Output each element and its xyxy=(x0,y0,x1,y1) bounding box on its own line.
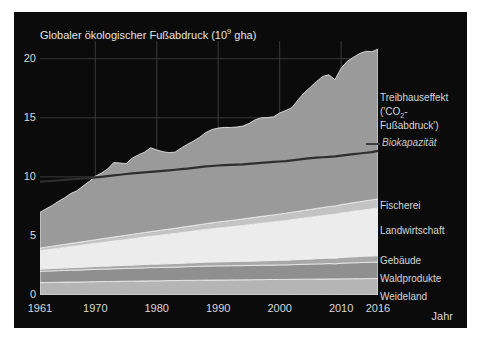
area-series-group xyxy=(40,49,378,295)
x-axis-tick-1961: 1961 xyxy=(17,303,63,314)
x-axis-tick-1990: 1990 xyxy=(195,303,241,314)
x-axis-tick-1970: 1970 xyxy=(72,303,118,314)
chart-figure: Globaler ökologischer Fußabdruck (109 gh… xyxy=(0,0,481,340)
x-axis-tick-2000: 2000 xyxy=(257,303,303,314)
x-axis-tick-1980: 1980 xyxy=(134,303,180,314)
legend-co2-post: - xyxy=(404,106,407,117)
chart-title: Globaler ökologischer Fußabdruck (109 gh… xyxy=(40,26,256,41)
chart-title-unit: gha) xyxy=(231,29,256,41)
legend-label-waldprodukte: Waldprodukte xyxy=(380,273,441,285)
legend-label-gebaeude: Gebäude xyxy=(380,255,421,267)
legend-label-fischerei: Fischerei xyxy=(380,200,421,212)
y-axis-tick-20: 20 xyxy=(14,53,36,64)
legend-label-landwirtschaft: Landwirtschaft xyxy=(380,225,444,237)
chart-title-text: Globaler ökologischer Fußabdruck (10 xyxy=(40,29,227,41)
y-axis-tick-15: 15 xyxy=(14,112,36,123)
stacked-area-chart xyxy=(40,41,378,295)
legend-label-greenhouse-line1: Treibhauseffekt xyxy=(380,92,448,104)
x-axis-title: Jahr xyxy=(432,310,453,322)
chart-panel: Globaler ökologischer Fußabdruck (109 gh… xyxy=(14,12,467,328)
x-axis-tick-2016: 2016 xyxy=(355,303,401,314)
legend-label-weideland: Weideland xyxy=(380,291,427,303)
plot-area xyxy=(40,41,378,295)
y-axis-tick-0: 0 xyxy=(14,289,36,300)
y-axis-tick-10: 10 xyxy=(14,171,36,182)
legend-co2-pre: ('CO xyxy=(380,106,400,117)
legend-label-biocapacity: Biokapazität xyxy=(382,137,436,149)
y-axis-tick-5: 5 xyxy=(14,230,36,241)
legend-label-greenhouse-line3: Fußabdruck') xyxy=(380,120,439,132)
legend-biocapacity-line-swatch xyxy=(366,143,380,145)
